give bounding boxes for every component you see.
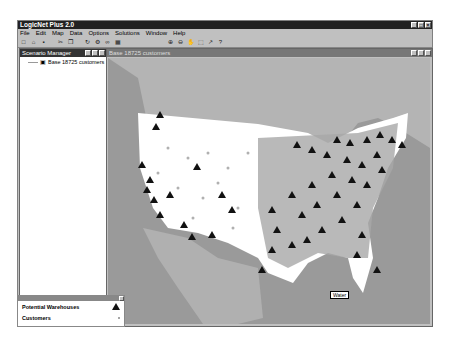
map-window: Base 18725 customers bbox=[106, 48, 433, 327]
link-icon[interactable]: ∞ bbox=[104, 39, 111, 46]
menu-map[interactable]: Map bbox=[52, 29, 64, 37]
menu-bar: File Edit Map Data Options Solutions Win… bbox=[18, 29, 432, 37]
scenario-icon: ▣ bbox=[40, 59, 46, 65]
close-button[interactable] bbox=[99, 50, 105, 56]
tree-item-label: Base 18725 customers bbox=[48, 59, 104, 65]
open-icon[interactable]: ⌂ bbox=[30, 39, 37, 46]
maximize-button[interactable] bbox=[418, 50, 424, 56]
select-icon[interactable]: ⬚ bbox=[197, 39, 204, 46]
cut-icon[interactable]: ✂ bbox=[57, 39, 64, 46]
maximize-button[interactable]: □ bbox=[418, 22, 424, 28]
triangle-icon bbox=[112, 303, 120, 310]
menu-edit[interactable]: Edit bbox=[36, 29, 46, 37]
menu-solutions[interactable]: Solutions bbox=[115, 29, 140, 37]
map-canvas[interactable] bbox=[108, 58, 430, 324]
menu-window[interactable]: Window bbox=[146, 29, 167, 37]
legend-label: Customers bbox=[22, 315, 51, 321]
grid-icon[interactable]: ▦ bbox=[114, 39, 121, 46]
zoom-in-icon[interactable]: ⊕ bbox=[167, 39, 174, 46]
new-icon[interactable]: □ bbox=[20, 39, 27, 46]
app-titlebar: LogicNet Plus 2.0 _ □ × bbox=[18, 21, 432, 29]
scenario-manager-title: Scenario Manager bbox=[22, 49, 85, 57]
water-label: Water bbox=[330, 291, 349, 299]
map-window-title: Base 18725 customers bbox=[109, 49, 411, 57]
menu-help[interactable]: Help bbox=[173, 29, 185, 37]
menu-data[interactable]: Data bbox=[70, 29, 83, 37]
copy-icon[interactable]: ❐ bbox=[67, 39, 74, 46]
close-button[interactable]: × bbox=[425, 22, 431, 28]
close-button[interactable] bbox=[119, 296, 124, 301]
arrow-icon[interactable]: ↗ bbox=[207, 39, 214, 46]
help-icon[interactable]: ? bbox=[217, 39, 224, 46]
legend-label: Potential Warehouses bbox=[22, 304, 79, 310]
app-title: LogicNet Plus 2.0 bbox=[20, 21, 411, 29]
solve-icon[interactable]: ⚙ bbox=[94, 39, 101, 46]
menu-options[interactable]: Options bbox=[88, 29, 109, 37]
legend-row-customers: Customers bbox=[18, 312, 124, 323]
refresh-icon[interactable]: ↻ bbox=[84, 39, 91, 46]
app-window: LogicNet Plus 2.0 _ □ × File Edit Map Da… bbox=[17, 20, 433, 327]
close-button[interactable] bbox=[425, 50, 431, 56]
zoom-out-icon[interactable]: ⊖ bbox=[177, 39, 184, 46]
minimize-button[interactable] bbox=[411, 50, 417, 56]
legend-row-warehouses: Potential Warehouses bbox=[18, 301, 124, 312]
legend-panel: Potential Warehouses Customers bbox=[17, 295, 125, 327]
tree-line bbox=[28, 62, 38, 63]
tree-item-scenario[interactable]: ▣ Base 18725 customers bbox=[20, 57, 106, 65]
save-icon[interactable]: ▪ bbox=[40, 39, 47, 46]
pan-icon[interactable]: ✋ bbox=[187, 39, 194, 46]
toolbar: □ ⌂ ▪ ✂ ❐ ↻ ⚙ ∞ ▦ ⊕ ⊖ ✋ ⬚ ↗ ? bbox=[18, 37, 432, 48]
map-window-titlebar: Base 18725 customers bbox=[107, 49, 432, 57]
minimize-button[interactable]: _ bbox=[411, 22, 417, 28]
us-map bbox=[108, 58, 430, 324]
dot-icon bbox=[118, 317, 120, 319]
minimize-button[interactable] bbox=[85, 50, 91, 56]
maximize-button[interactable] bbox=[92, 50, 98, 56]
menu-file[interactable]: File bbox=[20, 29, 30, 37]
scenario-manager-panel: Scenario Manager ▣ Base 18725 customers bbox=[19, 48, 107, 327]
scenario-manager-titlebar: Scenario Manager bbox=[20, 49, 106, 57]
